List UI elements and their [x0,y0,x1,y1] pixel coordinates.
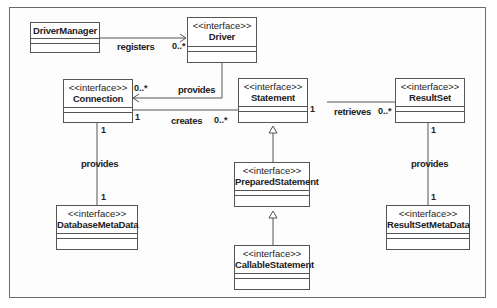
stereotype: <<interface>> [235,165,309,176]
class-name: DatabaseMetaData [57,219,137,230]
class-prepared-statement[interactable]: <<interface>> PreparedStatement [234,162,310,207]
label-retrieves: retrieves [334,106,371,117]
class-name: ResultSetMetaData [387,219,469,230]
label-provides-db: provides [81,158,118,169]
mult-rsmd: 1 [431,192,436,202]
stereotype: <<interface>> [239,81,307,92]
class-resultset[interactable]: <<interface>> ResultSet [395,78,465,123]
class-name: Statement [239,92,307,103]
mult-resultset-down: 1 [431,125,436,135]
stereotype: <<interface>> [235,248,309,259]
class-statement[interactable]: <<interface>> Statement [238,78,308,123]
class-name: CallableStatement [235,259,309,270]
mult-dbmd: 1 [101,192,106,202]
class-connection[interactable]: <<interface>> Connection [63,79,133,123]
stereotype: <<interface>> [387,208,469,219]
stereotype: <<interface>> [396,81,464,92]
stereotype: <<interface>> [57,208,137,219]
class-driver[interactable]: <<interface>> Driver [187,17,257,63]
class-name: ResultSet [396,92,464,103]
mult-connection-down: 1 [101,125,106,135]
stereotype: <<interface>> [64,82,132,93]
mult-statement-creates: 0..* [214,115,228,125]
class-resultset-metadata[interactable]: <<interface>> ResultSetMetaData [386,205,470,250]
generalization-triangle-icon [269,211,277,218]
generalization-triangle-icon [269,126,277,133]
label-creates: creates [171,115,202,126]
class-name: Driver [188,31,256,42]
mult-connection-creates: 1 [135,112,140,122]
mult-resultset-retrieves: 0..* [378,106,392,116]
mult-connection-driver: 0..* [134,83,148,93]
class-callable-statement[interactable]: <<interface>> CallableStatement [234,245,310,290]
label-provides-rs: provides [411,158,448,169]
label-provides-driver: provides [178,84,215,95]
class-driver-manager[interactable]: DriverManager [30,22,100,53]
mult-statement-retrieves: 1 [310,104,315,114]
class-name: Connection [64,93,132,104]
class-name: DriverManager [31,25,99,36]
stereotype: <<interface>> [188,20,256,31]
mult-driver: 0..* [172,41,186,51]
label-registers: registers [117,41,154,52]
class-database-metadata[interactable]: <<interface>> DatabaseMetaData [56,205,138,250]
class-name: PreparedStatement [235,176,309,187]
